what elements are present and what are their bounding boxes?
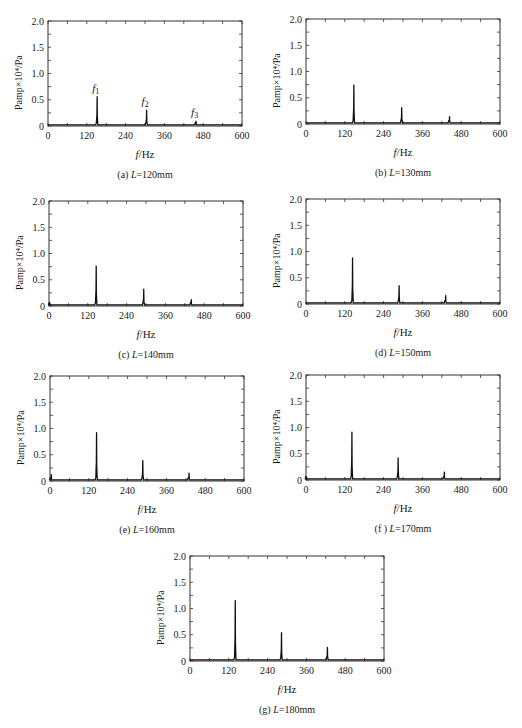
x-tick-label: 120 [221, 665, 236, 676]
y-axis-label: Pamp×10⁴/Pa [13, 55, 24, 110]
spectrum-line [49, 266, 243, 305]
y-tick-label: 2.0 [290, 370, 303, 381]
axes-frame [306, 375, 500, 480]
y-tick-label: 2.0 [174, 551, 187, 562]
x-tick-label: 600 [237, 485, 252, 496]
x-tick-label: 240 [260, 665, 275, 676]
y-tick-label: 1.0 [32, 68, 45, 79]
y-axis-label: Pamp×10⁴/Pa [15, 410, 26, 465]
x-tick-label: 120 [337, 308, 352, 319]
x-tick-label: 480 [454, 308, 469, 319]
x-tick-label: 480 [454, 128, 469, 139]
subplot-e: 012024036048060000.51.01.52.0Pamp×10⁴/Pa… [2, 356, 263, 536]
x-axis-label: f/Hz [373, 502, 433, 514]
y-tick-label: 1.5 [174, 577, 187, 588]
y-tick-label: 1.5 [32, 42, 45, 53]
y-tick-label: 0.5 [290, 448, 303, 459]
x-tick-label: 120 [337, 484, 352, 495]
y-tick-label: 1.5 [34, 397, 47, 408]
spectrum-line [306, 85, 500, 123]
subplot-caption: (e) L=160mm [97, 524, 197, 535]
y-tick-label: 1.5 [33, 222, 46, 233]
axes-frame [306, 199, 500, 304]
x-tick-label: 600 [236, 310, 251, 321]
axes-frame [49, 201, 243, 306]
axes-frame [306, 19, 500, 124]
y-tick-label: 1.0 [34, 423, 47, 434]
plot-area: 012024036048060000.51.01.52.0 [1, 181, 262, 321]
axes-frame [48, 21, 242, 126]
spectrum-line [305, 432, 500, 479]
y-tick-label: 0 [297, 299, 302, 310]
x-tick-label: 0 [304, 128, 309, 139]
axes-frame [190, 556, 384, 661]
subplot-caption: (b) L=130mm [353, 167, 453, 178]
plot-area: 012024036048060000.51.01.52.0 [258, 355, 519, 495]
plot-area: 012024036048060000.51.01.52.0 [142, 536, 403, 676]
y-tick-label: 0 [181, 656, 186, 667]
x-tick-label: 0 [46, 130, 51, 141]
peak-annotation: f2 [142, 95, 149, 109]
y-axis-label: Pamp×10⁴/Pa [271, 409, 282, 464]
x-tick-label: 360 [158, 310, 173, 321]
subplot-c: 012024036048060000.51.01.52.0Pamp×10⁴/Pa… [1, 181, 262, 361]
x-tick-label: 360 [299, 665, 314, 676]
y-tick-label: 0 [41, 476, 46, 487]
x-tick-label: 480 [338, 665, 353, 676]
x-tick-label: 480 [196, 130, 211, 141]
subplot-a: 012024036048060000.51.01.52.0f1f2f3Pamp×… [0, 1, 261, 181]
y-tick-label: 0.5 [174, 629, 187, 640]
x-tick-label: 240 [376, 484, 391, 495]
spectrum-line [306, 258, 500, 303]
subplot-caption: (g) L=180mm [237, 704, 337, 715]
y-tick-label: 2.0 [33, 196, 46, 207]
x-tick-label: 240 [376, 308, 391, 319]
y-tick-label: 1.0 [290, 422, 303, 433]
y-axis-label: Pamp×10⁴/Pa [271, 53, 282, 108]
y-tick-label: 2.0 [290, 194, 303, 205]
x-axis-label: f/Hz [373, 146, 433, 158]
x-tick-label: 0 [188, 665, 193, 676]
y-axis-label: Pamp×10⁴/Pa [271, 233, 282, 288]
y-tick-label: 2.0 [32, 16, 45, 27]
y-tick-label: 1.5 [290, 396, 303, 407]
plot-area: 012024036048060000.51.01.52.0 [258, 0, 519, 139]
y-tick-label: 2.0 [34, 371, 47, 382]
x-tick-label: 0 [304, 308, 309, 319]
x-axis-label: f/Hz [117, 503, 177, 515]
y-tick-label: 1.0 [33, 248, 46, 259]
x-tick-label: 360 [159, 485, 174, 496]
x-tick-label: 120 [79, 130, 94, 141]
subplot-caption: (a) L=120mm [95, 169, 195, 180]
y-tick-label: 0.5 [290, 92, 303, 103]
x-tick-label: 480 [198, 485, 213, 496]
y-tick-label: 1.0 [290, 246, 303, 257]
x-tick-label: 360 [157, 130, 172, 141]
x-tick-label: 600 [493, 128, 508, 139]
x-tick-label: 120 [81, 485, 96, 496]
y-tick-label: 1.0 [174, 603, 187, 614]
subplot-g: 012024036048060000.51.01.52.0Pamp×10⁴/Pa… [142, 536, 403, 726]
y-axis-label: Pamp×10⁴/Pa [155, 590, 166, 645]
x-tick-label: 0 [47, 310, 52, 321]
peak-annotation: f3 [191, 106, 198, 120]
y-tick-label: 0 [297, 475, 302, 486]
x-axis-label: f/Hz [373, 326, 433, 338]
y-tick-label: 1.0 [290, 66, 303, 77]
subplot-b: 012024036048060000.51.01.52.0Pamp×10⁴/Pa… [258, 0, 519, 179]
x-tick-label: 600 [377, 665, 392, 676]
plot-area: 012024036048060000.51.01.52.0 [2, 356, 263, 496]
y-tick-label: 0.5 [34, 449, 47, 460]
subplot-f: 012024036048060000.51.01.52.0Pamp×10⁴/Pa… [258, 355, 519, 535]
y-tick-label: 2.0 [290, 14, 303, 25]
x-tick-label: 600 [493, 484, 508, 495]
y-tick-label: 0.5 [290, 272, 303, 283]
x-axis-label: f/Hz [115, 148, 175, 160]
x-tick-label: 360 [415, 128, 430, 139]
axes-frame [50, 376, 244, 481]
plot-area: 012024036048060000.51.01.52.0 [258, 179, 519, 319]
x-tick-label: 240 [120, 485, 135, 496]
y-tick-label: 0 [297, 119, 302, 130]
x-tick-label: 360 [415, 308, 430, 319]
x-tick-label: 120 [80, 310, 95, 321]
